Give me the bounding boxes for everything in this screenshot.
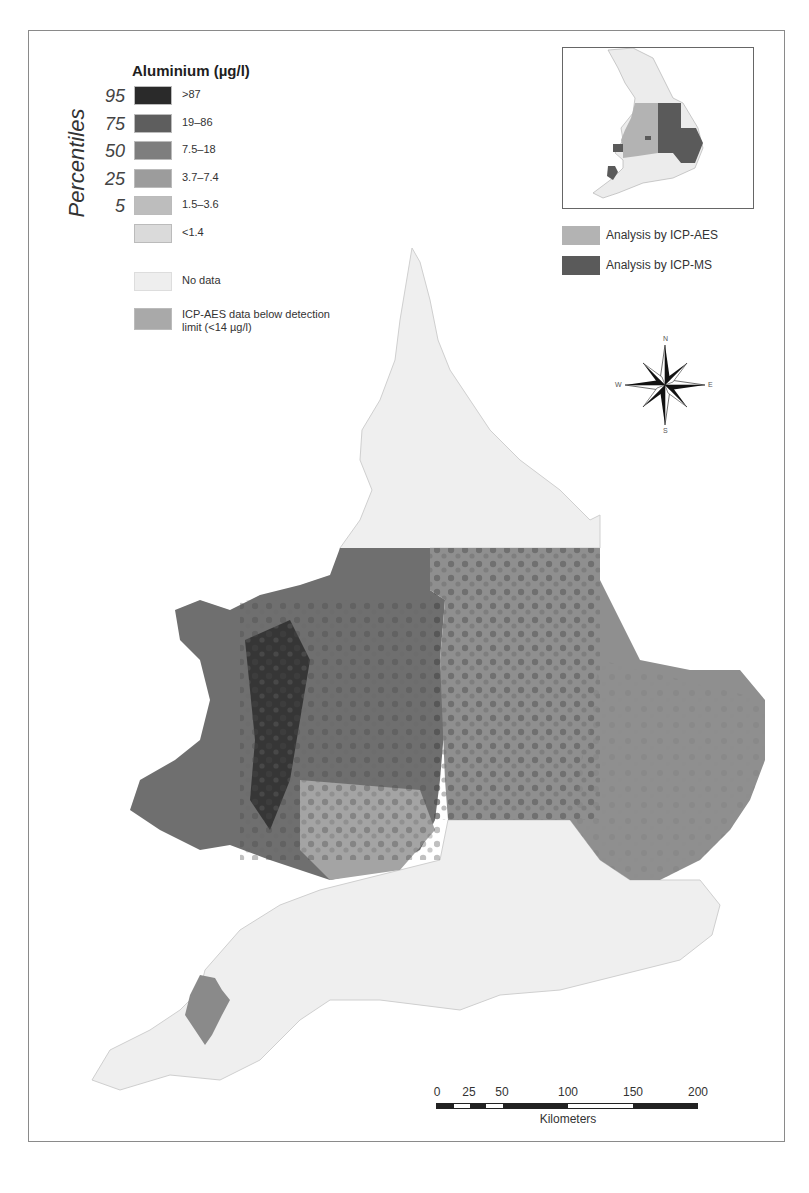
compass-south: S [663, 427, 668, 434]
legend-class: 7.5–18 [134, 141, 354, 161]
compass-east: E [708, 381, 713, 388]
scale-unit-label: Kilometers [433, 1112, 703, 1126]
legend-title: Aluminium (µg/l) [132, 62, 250, 79]
legend-swatch [134, 224, 172, 243]
scale-bar: 0 25 50 100 150 200 Kilometers [433, 1085, 703, 1135]
legend-class-label: 3.7–7.4 [182, 171, 219, 183]
inset-map [562, 47, 754, 209]
compass-west: W [615, 381, 622, 388]
percentile-tick: 50 [89, 141, 125, 162]
percentile-tick: 95 [89, 86, 125, 107]
legend-class: >87 [134, 86, 354, 106]
inset-legend-swatch [562, 256, 600, 275]
legend-class: 1.5–3.6 [134, 196, 354, 216]
inset-legend-label: Analysis by ICP-AES [606, 228, 718, 242]
legend-class-label: >87 [182, 88, 201, 100]
scale-tick: 100 [558, 1085, 578, 1099]
legend-class: 3.7–7.4 [134, 169, 354, 189]
legend-swatch [134, 141, 172, 160]
legend-class-label: 19–86 [182, 116, 213, 128]
legend-class-label: 1.5–3.6 [182, 198, 219, 210]
percentile-axis-label: Percentiles [64, 93, 90, 233]
legend-swatch [134, 308, 172, 330]
scale-tick: 0 [434, 1085, 441, 1099]
legend-below-detection-label: ICP-AES data below detection limit (<14 … [182, 308, 352, 334]
no-data-region-north [340, 248, 600, 590]
inset-legend-icp-aes: Analysis by ICP-AES [562, 226, 772, 246]
inset-legend-label: Analysis by ICP-MS [606, 258, 712, 272]
scale-tick: 200 [688, 1085, 708, 1099]
compass-north: N [663, 335, 668, 342]
scale-tick: 25 [462, 1085, 475, 1099]
legend-swatch [134, 169, 172, 188]
legend-swatch [134, 114, 172, 133]
legend-swatch [134, 196, 172, 215]
scale-tick: 50 [495, 1085, 508, 1099]
legend-class-label: 7.5–18 [182, 143, 216, 155]
compass-rose-icon: N S E W [615, 335, 715, 435]
legend-swatch [134, 86, 172, 105]
percentile-tick: 75 [89, 114, 125, 135]
legend-swatch [134, 272, 172, 291]
inset-legend-icp-ms: Analysis by ICP-MS [562, 256, 772, 276]
percentile-tick: 25 [89, 169, 125, 190]
inset-map-drawing [563, 48, 754, 209]
scale-tick: 150 [623, 1085, 643, 1099]
legend-no-data-label: No data [182, 274, 221, 287]
legend-class: 19–86 [134, 114, 354, 134]
percentile-axis: Percentiles 95 75 50 25 5 [65, 80, 95, 240]
legend-class-label: <1.4 [182, 226, 204, 238]
percentile-tick: 5 [89, 196, 125, 217]
scale-bar-strip [436, 1103, 698, 1109]
inset-legend-swatch [562, 226, 600, 245]
legend-class: <1.4 [134, 224, 354, 244]
